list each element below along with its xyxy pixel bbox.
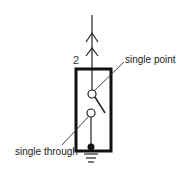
leader-single-point [94,62,124,91]
switch-contact-lower [87,109,95,117]
label-single-through: single through [15,146,78,157]
terminal-number: 2 [73,54,79,66]
switch-blade [95,97,105,113]
label-single-point: single point [125,54,176,65]
ground-node-icon [88,144,95,151]
switch-contact-upper [88,90,96,98]
switch-diagram: 2 single point single through [0,0,184,179]
